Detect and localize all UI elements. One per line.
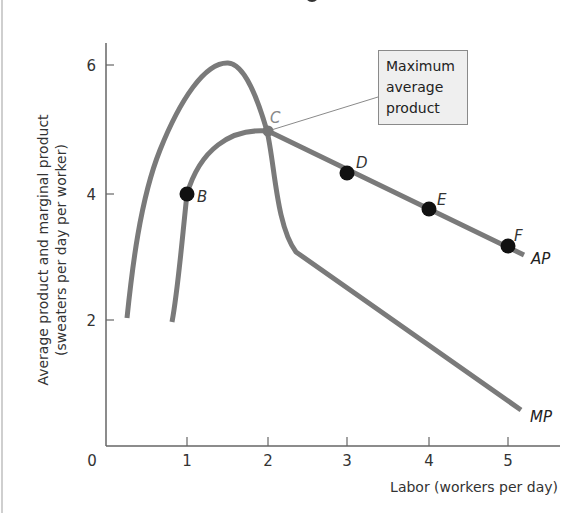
point-c-marker [263,126,274,137]
x-tick-label-0: 0 [87,452,97,470]
point-e-label: E [437,191,447,209]
x-tick-label-1: 1 [182,452,192,470]
annotation-line2: average [386,77,467,98]
x-tick-label-5: 5 [503,452,513,470]
point-d-marker [340,166,355,181]
annotation-line1: Maximum [386,56,467,77]
y-axis-title: Average product and marginal product (sw… [35,114,69,386]
x-tick-label-3: 3 [342,452,352,470]
y-tick-label-4: 4 [86,186,96,204]
ap-curve-label: AP [530,250,551,268]
point-d-label: D [356,154,368,172]
y-axis-title-line2: (sweaters per day per worker) [53,144,69,356]
y-axis-title-line1: Average product and marginal product [35,114,51,386]
x-tick-label-2: 2 [263,452,273,470]
ap-curve [172,131,524,322]
point-f-label: F [514,227,523,245]
point-b-marker [180,187,195,202]
x-axis-title: Labor (workers per day) [390,479,558,495]
y-tick-label-6: 6 [86,57,96,75]
annotation-leader-line [268,97,378,131]
mp-curve-label: MP [530,408,553,426]
point-b-label: B [197,188,207,206]
point-c-label: C [270,109,281,127]
axes [106,43,560,446]
annotation-line3: product [386,98,467,119]
chart-plot: 6 4 2 0 1 2 3 4 5 Labor (workers per day… [0,0,586,513]
y-tick-label-2: 2 [86,312,96,330]
x-tick-label-4: 4 [424,452,434,470]
point-e-marker [422,202,437,217]
max-average-product-annotation: Maximum average product [378,50,468,125]
